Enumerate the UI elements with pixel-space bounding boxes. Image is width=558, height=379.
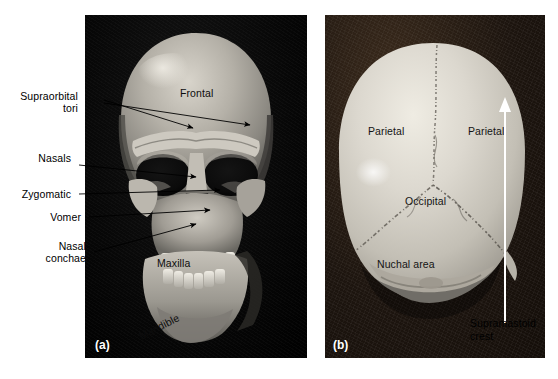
panel-b-posterior-skull-photo: Parietal Parietal Occipital Nuchal area … [325,15,545,358]
label-vomer: Vomer [0,211,81,224]
supramastoid-crest-arrow [490,95,520,325]
label-frontal: Frontal [180,87,213,100]
label-supraorbital-tori-line1: Supraorbital [0,90,78,103]
panel-tag-b: (b) [333,338,348,352]
label-nasal-conchae-line2: conchae [0,252,86,265]
label-zygomatic: Zygomatic [0,188,71,201]
label-maxilla: Maxilla [157,257,190,270]
panel-a-anterior-skull-photo: Frontal Maxilla Mandible (a) [85,15,307,358]
label-nasals: Nasals [0,152,71,165]
label-nasal-conchae-line1: Nasal [0,240,86,253]
label-supramastoid-crest-line1: Supramastoid [470,317,536,330]
label-parietal-left: Parietal [368,125,404,138]
label-supraorbital-tori-line2: tori [0,102,78,115]
label-supramastoid-crest-line2: crest [470,330,493,343]
figure-root: Frontal Maxilla Mandible (a) [0,0,558,379]
panel-tag-a: (a) [95,338,110,352]
skull-anterior-illustration [85,15,307,358]
label-occipital: Occipital [405,195,446,208]
label-nuchal-area: Nuchal area [377,258,435,271]
